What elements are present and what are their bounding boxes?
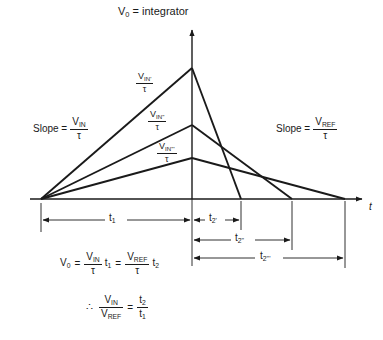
eq2-equals: =: [126, 303, 134, 313]
ramp-3-num-sub: IN''': [165, 145, 175, 152]
ramp-2-num-sub: IN'': [156, 113, 164, 120]
eq1-f2-num-base: V: [127, 251, 134, 262]
eq1-f1-num-base: V: [86, 251, 93, 262]
t2b-dimension-label: t2'': [235, 233, 244, 245]
ramp-3-den: τ: [157, 154, 177, 164]
title-rest: = integrator: [133, 5, 189, 17]
eq2-rden-sub: 1: [142, 313, 146, 320]
t2c-dimension-label: t2''': [260, 251, 270, 263]
eq2-num-sub: IN: [111, 299, 118, 306]
slope-left-annotation: Slope = VIN τ: [33, 117, 88, 142]
eq1-equals-1: =: [73, 259, 81, 269]
eq2-voltage-ratio: VIN VREF: [99, 295, 123, 320]
equation-ratio: ∴ VIN VREF = t2 t1: [86, 295, 148, 320]
run-down-ramp-3: [192, 158, 345, 199]
eq1-t2-sub: 2: [155, 262, 159, 269]
slope-left-num-base: V: [72, 116, 79, 127]
ramp-1-den: τ: [136, 84, 153, 94]
slope-left-text: Slope =: [33, 124, 67, 134]
eq1-t1-sub: 1: [108, 262, 112, 269]
t2c-sub: 2''': [263, 255, 271, 262]
eq1-equals-2: =: [114, 259, 122, 269]
slope-left-den: τ: [70, 130, 87, 142]
t2a-sub: 2': [212, 217, 217, 224]
t2b-sub: 2'': [238, 237, 244, 244]
slope-right-num-base: V: [315, 116, 322, 127]
t1-dimension-label: t1: [109, 213, 116, 225]
eq2-time-ratio: t2 t1: [137, 295, 148, 320]
slope-left-num-sub: IN: [79, 121, 86, 128]
title-subscript: 0: [125, 10, 129, 19]
eq1-lhs-base: V: [60, 257, 67, 268]
ramp-1-num-sub: IN': [144, 75, 151, 82]
slope-left-fraction: VIN τ: [70, 117, 87, 142]
slope-right-text: Slope =: [276, 124, 310, 134]
slope-right-annotation: Slope = VREF τ: [276, 117, 337, 142]
t2a-dimension-label: t2': [209, 213, 217, 225]
eq1-f1-den: τ: [84, 265, 101, 277]
integrator-waveform-figure: V0 = integrator t Slope = VIN τ Slope = …: [0, 0, 383, 340]
equation-balance: V0 = VIN τ t1 = VREF τ t2: [60, 252, 159, 277]
t1-sub: 1: [112, 217, 116, 224]
eq1-f2-den: τ: [125, 265, 149, 277]
eq1-lhs-sub: 0: [67, 262, 71, 269]
ramp-3-slope-label: VIN''' τ: [157, 142, 177, 165]
ramp-2-den: τ: [148, 122, 166, 132]
y-axis-title: V0 = integrator: [118, 6, 189, 19]
eq1-f1-num-sub: IN: [93, 256, 100, 263]
slope-right-den: τ: [313, 130, 337, 142]
ramp-2-slope-label: VIN'' τ: [148, 110, 166, 133]
eq1-fraction-in: VIN τ: [84, 252, 101, 277]
eq2-rnum-sub: 2: [142, 299, 146, 306]
eq2-den-sub: REF: [108, 313, 122, 320]
waveform-drawing: [0, 0, 383, 340]
eq2-den-base: V: [101, 308, 108, 319]
slope-right-fraction: VREF τ: [313, 117, 337, 142]
eq1-f2-num-sub: REF: [134, 256, 148, 263]
eq1-fraction-ref: VREF τ: [125, 252, 149, 277]
ramp-1-slope-label: VIN' τ: [136, 72, 153, 95]
slope-right-num-sub: REF: [322, 121, 336, 128]
x-axis-label: t: [369, 202, 372, 212]
run-down-ramp-1: [192, 68, 241, 199]
therefore-symbol: ∴: [86, 302, 96, 313]
